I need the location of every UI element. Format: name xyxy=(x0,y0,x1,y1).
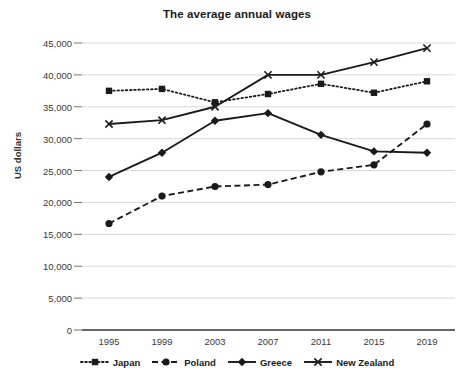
legend-item-greece[interactable]: Greece xyxy=(227,356,292,368)
plot-area xyxy=(0,0,474,389)
line-chart: The average annual wages US dollars 05,0… xyxy=(0,0,474,389)
series-japan xyxy=(106,78,430,105)
legend-item-new-zealand[interactable]: New Zealand xyxy=(303,356,394,368)
legend-label: Greece xyxy=(260,357,292,368)
legend-item-poland[interactable]: Poland xyxy=(151,356,216,368)
y-axis-ticks xyxy=(74,43,82,330)
legend-item-japan[interactable]: Japan xyxy=(80,356,140,368)
legend-label: New Zealand xyxy=(336,357,394,368)
chart-legend: JapanPolandGreeceNew Zealand xyxy=(0,356,474,368)
legend-swatch-x-icon xyxy=(303,356,333,368)
series-poland xyxy=(105,120,430,227)
legend-label: Japan xyxy=(113,357,140,368)
legend-swatch-diamond-icon xyxy=(227,356,257,368)
legend-label: Poland xyxy=(184,357,216,368)
legend-swatch-square-icon xyxy=(80,356,110,368)
legend-swatch-circle-icon xyxy=(151,356,181,368)
